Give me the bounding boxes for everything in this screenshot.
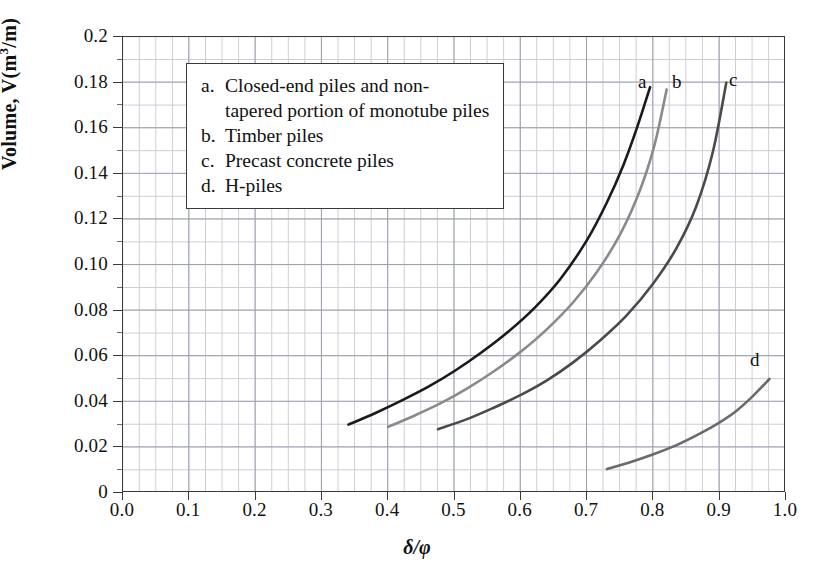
curve-label-c: c <box>729 70 737 89</box>
x-axis-title: δ/φ <box>0 536 834 559</box>
y-axis-tick <box>113 310 122 311</box>
legend-item-key: c. <box>201 148 225 173</box>
legend-item-key: d. <box>201 173 225 198</box>
y-axis-tick-label: 0.08 <box>18 300 108 319</box>
x-axis-tick-label: 0.1 <box>153 500 223 519</box>
y-axis-minor-tick <box>117 59 122 60</box>
chart-figure: 00.020.040.060.080.100.120.140.160.180.2… <box>0 0 834 586</box>
curve-label-d: d <box>750 350 760 369</box>
y-axis-tick <box>113 401 122 402</box>
y-axis-minor-tick <box>117 196 122 197</box>
y-axis-tick <box>113 173 122 174</box>
y-axis-minor-tick <box>117 469 122 470</box>
y-axis-minor-tick <box>117 150 122 151</box>
y-axis-tick <box>113 127 122 128</box>
y-axis-tick <box>113 36 122 37</box>
curve-label-a: a <box>638 72 646 91</box>
legend-item-a: a.Closed-end piles and non- <box>201 73 491 98</box>
legend-item-key: b. <box>201 123 225 148</box>
y-axis-tick-label: 0.02 <box>18 436 108 455</box>
legend-item-d: d.H-piles <box>201 173 491 198</box>
y-axis-title-exponent: 3 <box>0 48 11 55</box>
y-axis-tick-label: 0.04 <box>18 391 108 410</box>
curve-label-b: b <box>672 72 682 91</box>
y-axis-minor-tick <box>117 424 122 425</box>
y-axis-tick-label: 0.16 <box>18 117 108 136</box>
x-axis-tick-label: 0.6 <box>485 500 555 519</box>
y-axis-minor-tick <box>117 332 122 333</box>
y-axis-tick-label: 0.10 <box>18 254 108 273</box>
legend-item-label: H-piles <box>225 173 491 198</box>
legend-box: a.Closed-end piles and non-tapered porti… <box>186 63 504 209</box>
legend-item-label: Precast concrete piles <box>225 148 491 173</box>
x-axis-tick-label: 0.5 <box>419 500 489 519</box>
x-axis-tick-label: 0.2 <box>220 500 290 519</box>
x-axis-tick-label: 0.0 <box>87 500 157 519</box>
x-axis-tick-label: 0.7 <box>551 500 621 519</box>
y-axis-tick-label: 0.14 <box>18 163 108 182</box>
x-axis-tick-label: 1.0 <box>750 500 820 519</box>
legend-item-label: Closed-end piles and non- <box>225 73 491 98</box>
y-axis-minor-tick <box>117 378 122 379</box>
y-axis-minor-tick <box>117 241 122 242</box>
y-axis-tick-label: 0 <box>18 482 108 501</box>
y-axis-title-suffix: /m) <box>0 18 20 48</box>
y-axis-tick <box>113 264 122 265</box>
legend-item-c: c.Precast concrete piles <box>201 148 491 173</box>
y-axis-minor-tick <box>117 104 122 105</box>
x-axis-tick-label: 0.4 <box>352 500 422 519</box>
y-axis-title: Volume, V(m3/m) <box>0 0 21 170</box>
x-axis-tick-label: 0.8 <box>617 500 687 519</box>
y-axis-tick <box>113 218 122 219</box>
x-axis-tick-label: 0.3 <box>286 500 356 519</box>
y-axis-tick-label: 0.2 <box>18 26 108 45</box>
y-axis-minor-tick <box>117 287 122 288</box>
legend-item-key: a. <box>201 73 225 98</box>
x-axis-tick-label: 0.9 <box>684 500 754 519</box>
y-axis-tick <box>113 355 122 356</box>
y-axis-tick-label: 0.12 <box>18 208 108 227</box>
legend-item-label: Timber piles <box>225 123 491 148</box>
y-axis-title-prefix: Volume, V(m <box>0 54 20 170</box>
legend-item-label-continued: tapered portion of monotube piles <box>201 98 491 123</box>
legend-item-b: b.Timber piles <box>201 123 491 148</box>
y-axis-tick <box>113 446 122 447</box>
y-axis-tick <box>113 492 122 493</box>
y-axis-tick <box>113 82 122 83</box>
y-axis-tick-label: 0.06 <box>18 345 108 364</box>
curve-d <box>607 379 769 469</box>
y-axis-tick-label: 0.18 <box>18 72 108 91</box>
